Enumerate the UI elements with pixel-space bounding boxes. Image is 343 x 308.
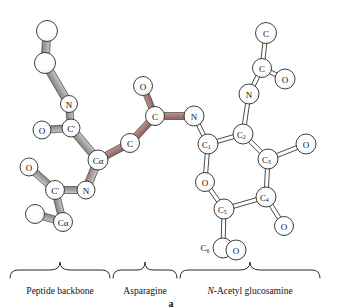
atom-nac-n: N — [239, 84, 259, 104]
bracket-n-acetyl-glucosamine — [180, 262, 320, 278]
panel-letter: a — [169, 298, 174, 308]
atom-pb-c-lower-extra — [26, 205, 45, 224]
atom-nac-c-carbonyl: C — [253, 59, 272, 78]
structure-diagram: C1C2C3C4C5OOOC6ONCOCCCONNC'OCαNC'OCα Pep… — [0, 0, 343, 308]
atom-pb-calpha-lower: Cα — [54, 213, 73, 232]
atom-glc-c2: C2 — [233, 124, 253, 144]
atom-asn-nd2: N — [184, 106, 204, 126]
atom-pb-o-lower: O — [20, 158, 38, 176]
atom-pb-c-top — [37, 21, 58, 42]
atom-asn-cgamma: C — [146, 107, 165, 126]
atom-asn-od1: O — [134, 77, 153, 96]
atom-pb-c-upper — [35, 53, 56, 74]
asparagine-bond-group — [96, 85, 194, 163]
bracket-label-peptide-backbone: Peptide backbone — [26, 286, 93, 296]
atom-glc-o6: O — [226, 240, 246, 260]
atom-pb-n-upper: N — [61, 96, 78, 113]
bracket-asparagine — [113, 262, 177, 278]
atom-asn-cbeta: C — [121, 134, 140, 153]
atom-nac-o: O — [275, 69, 295, 89]
atom-glc-o4: O — [275, 217, 294, 236]
atom-glc-c4: C4 — [256, 187, 276, 207]
atom-glc-c5: C5 — [214, 199, 234, 219]
atom-label-glc-c6-label: C6 — [200, 243, 209, 254]
atom-glc-c3: C3 — [258, 149, 278, 169]
atom-glc-o-ring: O — [196, 173, 215, 192]
atom-pb-n-lower: N — [77, 181, 95, 199]
atom-glc-c1: C1 — [198, 134, 218, 154]
atom-pb-calpha: Cα — [88, 150, 108, 170]
bracket-label-rest: -Acetyl glucosamine — [214, 286, 293, 296]
atom-pb-o-upper: O — [33, 121, 51, 139]
atom-pb-cprime-upper: C' — [62, 119, 80, 137]
atom-glc-o3: O — [296, 134, 316, 154]
chemical-structure-figure: C1C2C3C4C5OOOC6ONCOCCCONNC'OCαNC'OCα Pep… — [0, 0, 343, 308]
atom-nac-ch3: C — [256, 23, 277, 44]
atom-group: C1C2C3C4C5OOOC6ONCOCCCONNC'OCαNC'OCα — [20, 21, 316, 261]
bracket-label-group: Peptide backbone Asparagine N-Acetyl glu… — [26, 286, 292, 308]
bracket-label-asparagine: Asparagine — [123, 286, 166, 296]
bracket-group — [10, 262, 320, 278]
atom-pb-cprime-lower: C' — [46, 181, 65, 200]
bracket-label-n-acetyl-glucosamine: N-Acetyl glucosamine — [206, 286, 292, 296]
bracket-peptide-backbone — [10, 262, 110, 278]
